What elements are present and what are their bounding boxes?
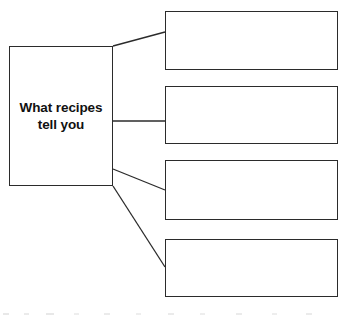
connector-line-1 [113, 32, 165, 46]
detail-box-1[interactable] [165, 11, 338, 70]
detail-box-3[interactable] [165, 160, 338, 220]
detail-box-2[interactable] [165, 86, 338, 144]
detail-box-3-label [166, 161, 337, 173]
detail-box-4[interactable] [165, 239, 338, 297]
connector-line-3 [113, 169, 165, 190]
detail-box-2-label [166, 87, 337, 99]
detail-box-4-label [166, 240, 337, 252]
main-topic-box[interactable]: What recipes tell you [9, 46, 113, 186]
detail-box-1-label [166, 12, 337, 24]
connector-line-4 [113, 186, 165, 267]
scan-artifact-strip [0, 312, 351, 322]
graphic-organizer-diagram: What recipes tell you [0, 0, 351, 322]
main-topic-label: What recipes tell you [10, 99, 112, 134]
